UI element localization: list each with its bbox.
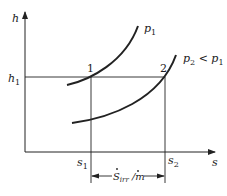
y-axis-label: h bbox=[12, 12, 19, 25]
curve-p1-label: p1 bbox=[144, 22, 156, 37]
h1-label: h1 bbox=[8, 72, 20, 87]
h-s-diagram: h s h1 s1 s2 p1 p2 < p1 1 2 Sirr /m bbox=[0, 0, 227, 196]
dimension-label: Sirr /m bbox=[113, 171, 145, 184]
s2-label: s2 bbox=[168, 154, 179, 169]
s1-label: s1 bbox=[77, 156, 88, 171]
point-1-label: 1 bbox=[87, 62, 94, 75]
dot-over-s bbox=[116, 168, 118, 170]
curve-p1 bbox=[67, 26, 138, 85]
x-axis-label: s bbox=[212, 156, 218, 169]
dot-over-m bbox=[137, 170, 139, 172]
point-2-label: 2 bbox=[160, 62, 167, 75]
curve-p2-label: p2 < p1 bbox=[183, 52, 224, 67]
